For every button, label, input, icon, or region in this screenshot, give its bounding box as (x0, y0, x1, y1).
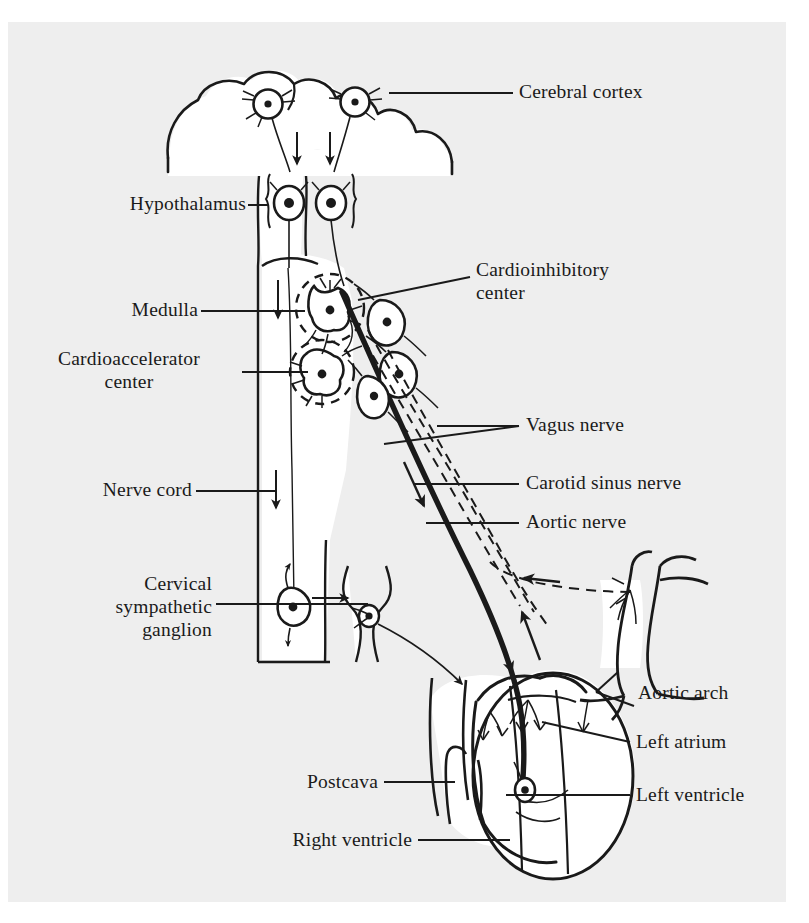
afferent-arrow-atrium (522, 612, 540, 660)
label-hypothalamus: Hypothalamus (46, 192, 246, 215)
label-cervical-sympathetic-ganglion: Cervical sympathetic ganglion (32, 572, 212, 641)
label-nerve-cord: Nerve cord (36, 478, 192, 501)
label-aortic-arch: Aortic arch (638, 681, 728, 704)
label-cardioaccelerator-center: Cardioaccelerator center (22, 347, 236, 393)
label-medulla: Medulla (40, 298, 198, 321)
figure-page: Cerebral cortex Hypothalamus Cardioinhib… (0, 0, 809, 923)
cervical-sympathetic-ganglion-body (343, 566, 391, 662)
label-cerebral-cortex: Cerebral cortex (519, 80, 643, 103)
afferent-arrow-aortic (524, 578, 560, 582)
label-carotid-sinus-nerve: Carotid sinus nerve (526, 471, 681, 494)
label-right-ventricle: Right ventricle (180, 828, 412, 851)
postganglionic-fibre (378, 624, 462, 684)
label-left-ventricle: Left ventricle (636, 783, 744, 806)
leader-lines (196, 93, 634, 840)
label-left-atrium: Left atrium (636, 730, 726, 753)
label-cardioinhibitory-center: Cardioinhibitory center (476, 258, 609, 304)
label-vagus-nerve: Vagus nerve (526, 413, 624, 436)
label-aortic-nerve: Aortic nerve (526, 510, 626, 533)
label-postcava: Postcava (180, 770, 378, 793)
